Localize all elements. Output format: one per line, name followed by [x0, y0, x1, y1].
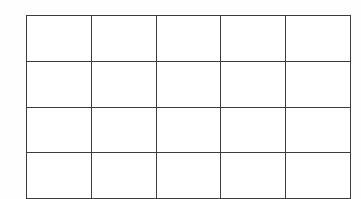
- grid-cell-r3c3[interactable]: [156, 107, 221, 153]
- grid-cell-r1c4[interactable]: [221, 16, 286, 62]
- grid-cell-r3c1[interactable]: [27, 107, 92, 153]
- grid-table: [26, 15, 351, 199]
- grid-cell-r4c5[interactable]: [286, 153, 351, 199]
- grid-cell-r4c4[interactable]: [221, 153, 286, 199]
- table-row: [27, 61, 351, 107]
- grid-cell-r1c5[interactable]: [286, 16, 351, 62]
- grid-cell-r3c5[interactable]: [286, 107, 351, 153]
- grid-cell-r4c2[interactable]: [91, 153, 156, 199]
- grid-cell-r1c3[interactable]: [156, 16, 221, 62]
- grid-cell-r2c3[interactable]: [156, 61, 221, 107]
- grid-cell-r2c5[interactable]: [286, 61, 351, 107]
- grid-cell-r2c1[interactable]: [27, 61, 92, 107]
- figure-canvas: [0, 0, 361, 199]
- grid-cell-r3c2[interactable]: [91, 107, 156, 153]
- grid-cell-r2c2[interactable]: [91, 61, 156, 107]
- grid-cell-r2c4[interactable]: [221, 61, 286, 107]
- grid-cell-r1c1[interactable]: [27, 16, 92, 62]
- grid-cell-r4c3[interactable]: [156, 153, 221, 199]
- table-row: [27, 16, 351, 62]
- grid-cell-r3c4[interactable]: [221, 107, 286, 153]
- table-row: [27, 153, 351, 199]
- grid-cell-r1c2[interactable]: [91, 16, 156, 62]
- grid-cell-r4c1[interactable]: [27, 153, 92, 199]
- table-row: [27, 107, 351, 153]
- grid-table-body: [27, 16, 351, 199]
